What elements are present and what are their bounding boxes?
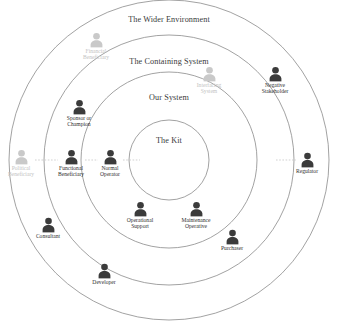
actor-maintenance-operative[interactable]: Maintenance Operative [166, 201, 226, 229]
actor-label-maintenance-operative: Maintenance Operative [182, 218, 211, 229]
person-icon [64, 149, 79, 165]
actor-label-financial-beneficiary: Financial Beneficiary [83, 49, 109, 60]
actor-label-regulator: Regulator [296, 169, 318, 175]
person-icon [97, 263, 112, 279]
person-icon [89, 32, 104, 48]
ring-circle-kit [129, 120, 209, 200]
actor-label-political-beneficiary: Political Beneficiary [8, 166, 34, 177]
ring-label-kit: The Kit [156, 136, 182, 145]
actor-label-normal-operator: Normal Operator [100, 166, 120, 177]
person-icon [268, 66, 283, 82]
actor-negative-stakeholder[interactable]: Negative Stakeholder [245, 66, 305, 94]
actor-consultant[interactable]: Consultant [18, 217, 78, 240]
onion-diagram-canvas: The KitOur SystemThe Containing SystemTh… [0, 0, 339, 323]
person-icon [133, 201, 148, 217]
actor-label-purchaser: Purchaser [221, 246, 243, 252]
actor-purchaser[interactable]: Purchaser [202, 229, 262, 252]
ring-label-wider: The Wider Environment [128, 15, 210, 24]
person-icon [202, 66, 217, 82]
person-icon [189, 201, 204, 217]
actor-interfacing-system[interactable]: Interfacing System [179, 66, 239, 94]
actor-normal-operator[interactable]: Normal Operator [80, 149, 140, 177]
person-icon [300, 152, 315, 168]
person-icon [72, 99, 87, 115]
actor-label-negative-stakeholder: Negative Stakeholder [262, 83, 289, 94]
actor-label-developer: Developer [92, 280, 115, 286]
actor-operational-support[interactable]: Operational Support [110, 201, 170, 229]
person-icon [103, 149, 118, 165]
person-icon [225, 229, 240, 245]
person-icon [41, 217, 56, 233]
actor-financial-beneficiary[interactable]: Financial Beneficiary [66, 32, 126, 60]
actor-label-consultant: Consultant [36, 234, 60, 240]
actor-regulator[interactable]: Regulator [277, 152, 337, 175]
person-icon [14, 149, 29, 165]
actor-label-sponsor-or-champion: Sponsor or Champion [67, 116, 91, 127]
actor-label-interfacing-system: Interfacing System [197, 83, 222, 94]
actor-sponsor-or-champion[interactable]: Sponsor or Champion [49, 99, 109, 127]
actor-developer[interactable]: Developer [74, 263, 134, 286]
ring-label-containing: The Containing System [129, 57, 208, 66]
actor-label-operational-support: Operational Support [127, 218, 153, 229]
